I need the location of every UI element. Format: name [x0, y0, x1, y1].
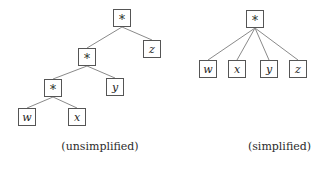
tree-node-label: x [74, 112, 80, 123]
caption-simplified: (simplified) [200, 140, 330, 153]
caption-unsimplified: (unsimplified) [0, 140, 200, 153]
expression-tree-figure: ***wxyz*wxyz (unsimplified) (simplified) [0, 0, 330, 174]
tree-node-label: * [84, 53, 90, 65]
tree-node-u-y: y [106, 78, 124, 96]
tree-edge [122, 27, 152, 40]
tree-edge [87, 27, 122, 48]
tree-edge [53, 66, 87, 79]
tree-edge [237, 28, 255, 60]
tree-node-label: z [295, 64, 301, 75]
tree-node-label: y [266, 64, 272, 75]
tree-node-label: w [22, 112, 31, 123]
tree-node-u-x: x [68, 108, 86, 126]
tree-node-s-w: w [199, 60, 217, 78]
tree-node-label: * [50, 84, 56, 96]
tree-node-s-y: y [260, 60, 278, 78]
tree-edge [208, 28, 255, 60]
tree-node-label: * [119, 14, 125, 26]
tree-edge [255, 28, 269, 60]
tree-edge [87, 66, 115, 78]
tree-node-s-root: * [246, 10, 264, 28]
tree-node-s-x: x [228, 60, 246, 78]
tree-node-label: z [149, 44, 155, 55]
tree-node-u-mul2: * [78, 48, 96, 66]
tree-node-u-w: w [18, 108, 36, 126]
tree-node-label: y [112, 82, 118, 93]
tree-edge [255, 28, 298, 60]
tree-node-label: x [234, 64, 240, 75]
tree-node-label: * [252, 15, 258, 27]
tree-node-u-z: z [143, 40, 161, 58]
tree-node-u-root: * [113, 9, 131, 27]
tree-node-label: w [203, 64, 212, 75]
tree-node-s-z: z [289, 60, 307, 78]
tree-edge [27, 97, 53, 108]
tree-node-u-mul3: * [44, 79, 62, 97]
tree-edge [53, 97, 77, 108]
